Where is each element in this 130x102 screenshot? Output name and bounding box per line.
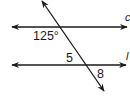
angle-5-label: 5 bbox=[66, 51, 73, 65]
line-l-label: l bbox=[126, 50, 129, 62]
parallel-lines-diagram: 125° 5 8 c l bbox=[0, 0, 130, 102]
transversal-line bbox=[42, 1, 104, 91]
angle-8-label: 8 bbox=[97, 67, 104, 81]
line-c-label: c bbox=[125, 11, 130, 23]
angle-125-label: 125° bbox=[33, 29, 59, 43]
